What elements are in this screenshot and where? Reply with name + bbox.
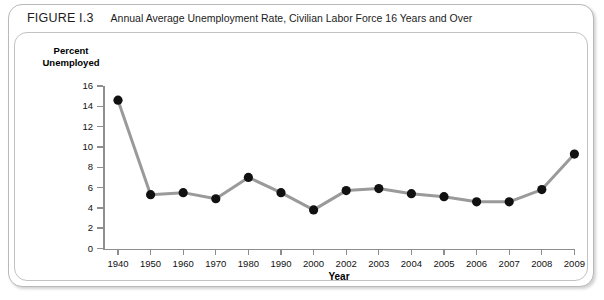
figure-header: FIGURE I.3 Annual Average Unemployment R…	[9, 5, 593, 31]
data-point-marker: 1940: 14.6	[113, 96, 122, 105]
figure-label: FIGURE I.3	[27, 11, 94, 25]
data-point-marker: 1970: 4.9	[211, 194, 220, 203]
data-point-marker: 2007: 4.6	[505, 197, 514, 206]
data-point-marker: 1980: 7	[244, 173, 253, 182]
data-point-marker: 2004: 5.4	[407, 189, 416, 198]
data-point-marker: 1960: 5.5	[179, 188, 188, 197]
data-point-marker: 2005: 5.1	[439, 192, 448, 201]
figure-card: FIGURE I.3 Annual Average Unemployment R…	[8, 4, 594, 287]
chart-plot-area: 0246810121416 19401950196019701980199020…	[15, 33, 588, 281]
data-point-marker: 2003: 5.9	[374, 184, 383, 193]
x-axis-title: Year	[103, 271, 575, 281]
unemployment-line-series: 1940: 14.61950: 5.31960: 5.51970: 4.9198…	[15, 33, 588, 281]
plot-panel: Percent Unemployed 0246810121416 1940195…	[14, 32, 588, 281]
data-point-marker: 2002: 5.7	[342, 186, 351, 195]
data-point-marker: 2009: 9.3	[570, 149, 579, 158]
figure-title: Annual Average Unemployment Rate, Civili…	[111, 12, 473, 24]
data-point-marker: 1950: 5.3	[146, 190, 155, 199]
data-point-marker: 2006: 4.6	[472, 197, 481, 206]
data-point-marker: 1990: 5.5	[276, 188, 285, 197]
data-point-marker: 2008: 5.8	[537, 185, 546, 194]
data-point-marker: 2000: 3.8	[309, 205, 318, 214]
